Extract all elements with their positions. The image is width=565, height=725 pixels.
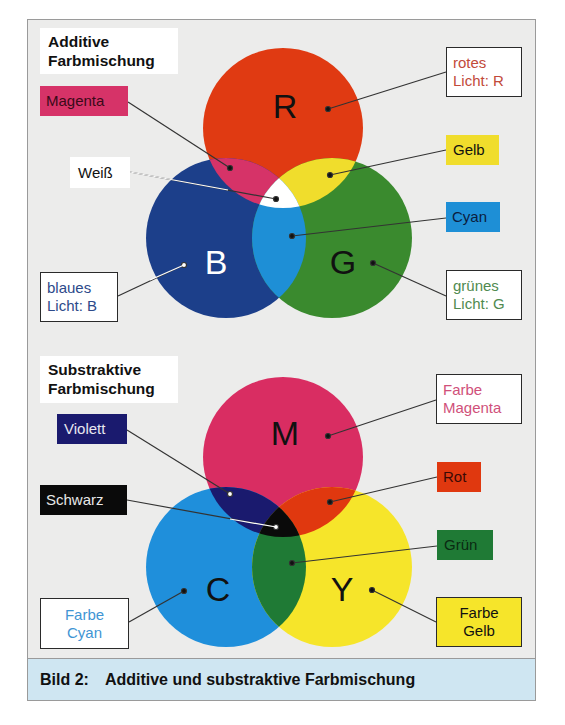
letter-m: M — [271, 414, 299, 452]
label-farbe-cyan-text: Farbe Cyan — [65, 606, 104, 642]
caption-number: Bild 2: — [40, 671, 89, 689]
label-cyan: Cyan — [446, 202, 500, 232]
label-farbe-cyan: Farbe Cyan — [40, 598, 129, 649]
label-rot: Rot — [437, 462, 481, 492]
label-cyan-text: Cyan — [452, 208, 487, 226]
additive-diagram: R B G — [118, 48, 446, 318]
label-weiss-text: Weiß — [78, 164, 113, 182]
label-schwarz: Schwarz — [40, 485, 127, 515]
label-farbe-gelb-text: Farbe Gelb — [459, 604, 498, 640]
letter-g: G — [330, 243, 356, 281]
caption-text: Additive und substraktive Farbmischung — [105, 671, 415, 689]
letter-r: R — [273, 87, 298, 125]
label-gruen-text: Grün — [444, 536, 477, 554]
label-magenta: Magenta — [40, 86, 128, 116]
label-green-light: grünes Licht: G — [446, 270, 522, 320]
label-farbe-gelb: Farbe Gelb — [436, 597, 522, 647]
label-weiss: Weiß — [70, 157, 130, 188]
letter-c: C — [206, 570, 231, 608]
label-red-light-text: rotes Licht: R — [453, 54, 504, 90]
label-violett: Violett — [57, 414, 127, 444]
figure-caption: Bild 2: Additive und substraktive Farbmi… — [28, 658, 535, 700]
label-gelb: Gelb — [446, 135, 499, 165]
label-gruen: Grün — [437, 530, 493, 560]
label-schwarz-text: Schwarz — [46, 491, 104, 509]
label-gelb-text: Gelb — [453, 141, 485, 159]
label-red-light: rotes Licht: R — [446, 47, 522, 97]
label-blue-light-text: blaues Licht: B — [47, 279, 97, 315]
additive-title: Additive Farbmischung — [40, 28, 178, 74]
label-farbe-magenta: Farbe Magenta — [436, 374, 522, 424]
label-blue-light: blaues Licht: B — [40, 272, 118, 322]
subtractive-diagram: M C Y — [127, 377, 437, 647]
letter-y: Y — [331, 570, 354, 608]
label-farbe-magenta-text: Farbe Magenta — [443, 381, 501, 417]
label-green-light-text: grünes Licht: G — [453, 277, 505, 313]
subtractive-title: Substraktive Farbmischung — [40, 356, 178, 403]
label-rot-text: Rot — [443, 468, 466, 486]
label-violett-text: Violett — [64, 420, 105, 438]
letter-b: B — [205, 243, 228, 281]
label-magenta-text: Magenta — [46, 92, 104, 110]
